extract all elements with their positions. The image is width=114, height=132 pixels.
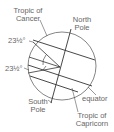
angle-arc-top: [43, 55, 46, 65]
angle-top-leader: [29, 41, 33, 42]
tropic-of-capricorn-label: Tropic of Capricorn: [72, 112, 112, 128]
globe-circle: [28, 32, 96, 100]
angle-top-label: 23½°: [8, 37, 26, 45]
angle-bottom-label: 23½°: [5, 65, 23, 73]
label-line: Cancer: [10, 15, 46, 23]
tropic-of-cancer-line: [33, 40, 95, 60]
label-line: Capricorn: [72, 120, 112, 128]
ray-top: [33, 42, 60, 67]
upper-parallel-line: [29, 57, 60, 67]
label-line: Pole: [24, 106, 52, 114]
equator-label: equator: [82, 95, 107, 103]
south-pole-label: South Pole: [24, 98, 52, 114]
tropic-of-cancer-label: Tropic of Cancer: [10, 7, 46, 23]
ray-bottom: [28, 67, 60, 73]
north-pole-label: North Pole: [68, 16, 96, 32]
earth-axis: [51, 29, 71, 103]
label-line: Pole: [68, 24, 96, 32]
